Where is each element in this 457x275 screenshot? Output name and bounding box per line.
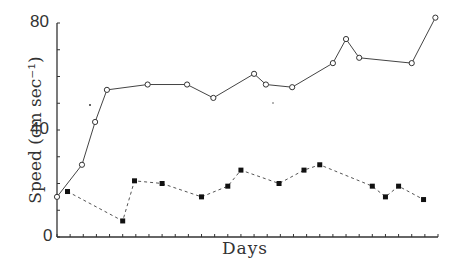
data-point-circle: [104, 87, 109, 92]
data-point-square: [160, 181, 165, 186]
y-tick-label-80: 80: [30, 12, 49, 32]
series-line-1: [68, 165, 424, 221]
data-point-circle: [263, 82, 268, 87]
axes: [57, 23, 438, 237]
data-point-circle: [145, 82, 150, 87]
data-point-circle: [93, 119, 98, 124]
data-point-circle: [54, 194, 59, 199]
data-point-square: [199, 194, 204, 199]
data-point-square: [132, 178, 137, 183]
data-point-square: [370, 184, 375, 189]
data-point-square: [383, 194, 388, 199]
data-point-square: [301, 168, 306, 173]
data-point-circle: [211, 95, 216, 100]
series-line-0: [57, 18, 435, 197]
data-point-square: [421, 197, 426, 202]
data-point-square: [317, 162, 322, 167]
series-group: [54, 15, 438, 223]
stray-dot: [272, 102, 274, 104]
data-point-square: [120, 218, 125, 223]
y-axis-label: Speed (cm sec⁻¹): [25, 56, 45, 203]
x-axis-label: Days: [222, 238, 268, 258]
data-point-circle: [79, 162, 84, 167]
data-point-square: [225, 184, 230, 189]
data-point-square: [396, 184, 401, 189]
data-point-circle: [357, 55, 362, 60]
line-chart: [0, 0, 457, 275]
data-point-square: [277, 181, 282, 186]
data-point-circle: [290, 85, 295, 90]
y-tick-label-0: 0: [43, 226, 52, 246]
data-point-circle: [251, 71, 256, 76]
data-point-circle: [330, 61, 335, 66]
data-point-circle: [184, 82, 189, 87]
data-point-circle: [433, 15, 438, 20]
data-point-square: [238, 168, 243, 173]
data-point-square: [65, 189, 70, 194]
stray-dot: [89, 104, 91, 106]
data-point-circle: [409, 61, 414, 66]
data-point-circle: [343, 36, 348, 41]
